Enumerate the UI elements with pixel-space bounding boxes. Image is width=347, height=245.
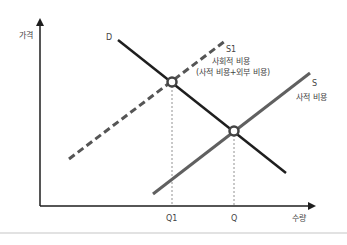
x-axis-label: 수량 <box>292 213 307 223</box>
social-supply-caption-1: 사회적 비용 <box>212 56 250 66</box>
social-supply-label: S1 <box>226 45 236 54</box>
y-axis-label: 가격 <box>19 30 33 40</box>
q1-label: Q1 <box>166 214 177 223</box>
private-supply-caption: 사적 비용 <box>296 92 327 102</box>
social-supply-curve <box>69 41 225 159</box>
demand-label: D <box>106 33 112 42</box>
market-equilibrium-point <box>230 127 239 136</box>
private-supply-label: S <box>312 79 317 88</box>
bottom-divider <box>0 232 347 234</box>
social-optimum-point <box>168 78 177 87</box>
externality-diagram: 가격 수량 D S1 사회적 비용 (사적 비용+외부 비용) S 사적 비용 … <box>0 0 347 245</box>
social-supply-caption-2: (사적 비용+외부 비용) <box>196 67 270 77</box>
q-label: Q <box>231 214 237 223</box>
